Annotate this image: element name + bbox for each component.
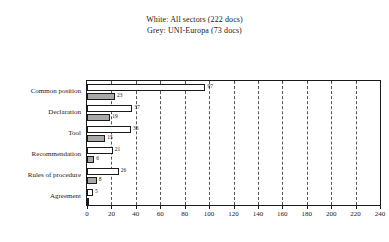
bar [87,84,205,91]
x-axis-tick-label: 180 [302,210,313,218]
bar-slot: 6 [87,156,380,163]
x-axis-tick-label: 40 [132,210,139,218]
x-axis-tick-label: 100 [204,210,215,218]
bar [87,156,94,163]
bar [87,189,93,196]
x-axis-tick-label: 160 [277,210,288,218]
bar [87,114,110,121]
x-axis-tick [258,206,259,209]
bar-slot: 19 [87,114,380,121]
bar-value-label: 8 [99,175,102,184]
bar [87,147,113,154]
bar-value-label: 19 [112,112,118,121]
y-axis-tick-label: Declaration [48,108,81,116]
legend-line-white: White: All sectors (222 docs) [0,14,389,25]
bar [87,168,119,175]
bar-slot: 26 [87,168,380,175]
bar [87,198,89,205]
bar [87,126,131,133]
x-axis-tick-label: 220 [350,210,361,218]
y-axis-labels: Common positionDeclarationToolRecommenda… [0,80,84,206]
bar [87,135,105,142]
plot-area: 9723371936152162685 [86,80,381,206]
x-axis-tick-label: 140 [253,210,264,218]
bar-value-label: 37 [134,103,140,112]
bar-value-label: 5 [95,187,98,196]
x-axis-tick-label: 20 [108,210,115,218]
bar-group: 3719 [87,102,380,123]
x-axis-tick [380,206,381,209]
bar-value-label: 36 [133,124,139,133]
x-axis: 020406080100120140160180200220240 [86,206,381,222]
bar-value-label: 97 [207,82,213,91]
bar-chart: 9723371936152162685 [86,80,381,206]
x-axis-tick [160,206,161,209]
bar-value-label: 26 [121,166,127,175]
x-axis-tick-label: 240 [375,210,386,218]
bar [87,93,115,100]
x-axis-tick-label: 60 [157,210,164,218]
x-axis-tick-label: 200 [326,210,337,218]
y-axis-tick-label: Common position [31,87,81,95]
bar-slot: 21 [87,147,380,154]
x-axis-tick [111,206,112,209]
bar-slot: 8 [87,177,380,184]
chart-legend: White: All sectors (222 docs) Grey: UNI-… [0,14,389,36]
bar [87,177,97,184]
bar-value-label: 15 [107,133,113,142]
y-axis-tick-label: Agreement [50,192,81,200]
x-axis-tick [209,206,210,209]
x-axis-tick [282,206,283,209]
y-axis-tick-label: Rules of procedure [28,171,81,179]
bar-slot: 97 [87,84,380,91]
bar-slot: 36 [87,126,380,133]
legend-line-grey: Grey: UNI-Europa (73 docs) [0,25,389,36]
x-axis-tick [87,206,88,209]
x-axis-tick-label: 80 [181,210,188,218]
bar-group: 268 [87,165,380,186]
bar-slot: 37 [87,105,380,112]
bar-value-label: 6 [96,154,99,163]
y-axis-tick-label: Tool [68,129,81,137]
bar-slot: 5 [87,189,380,196]
bar-group: 216 [87,144,380,165]
bar-value-label: 23 [117,91,123,100]
bar-slot: 23 [87,93,380,100]
x-axis-tick [234,206,235,209]
x-axis-tick [331,206,332,209]
x-axis-tick [185,206,186,209]
y-axis-tick-label: Recommendation [32,150,81,158]
bar-value-label: 21 [115,145,121,154]
bar [87,105,132,112]
bar-slot [87,198,380,205]
x-axis-tick-label: 0 [85,210,89,218]
x-axis-tick-label: 120 [228,210,239,218]
bar-group: 5 [87,186,380,206]
bar-group: 9723 [87,81,380,102]
x-axis-tick [136,206,137,209]
x-axis-tick [356,206,357,209]
x-axis-tick [307,206,308,209]
bar-slot: 15 [87,135,380,142]
bar-group: 3615 [87,123,380,144]
